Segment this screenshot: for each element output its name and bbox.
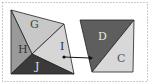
- label-g: G: [30, 18, 39, 31]
- transformation-diagram: G H I J D C: [0, 0, 150, 84]
- label-j: J: [34, 60, 39, 73]
- right-shape: D C: [80, 20, 134, 72]
- left-shape: G H I J: [11, 10, 74, 74]
- label-h: H: [18, 43, 28, 56]
- label-c: C: [117, 52, 125, 65]
- label-d: D: [98, 30, 107, 43]
- label-i: I: [60, 40, 64, 53]
